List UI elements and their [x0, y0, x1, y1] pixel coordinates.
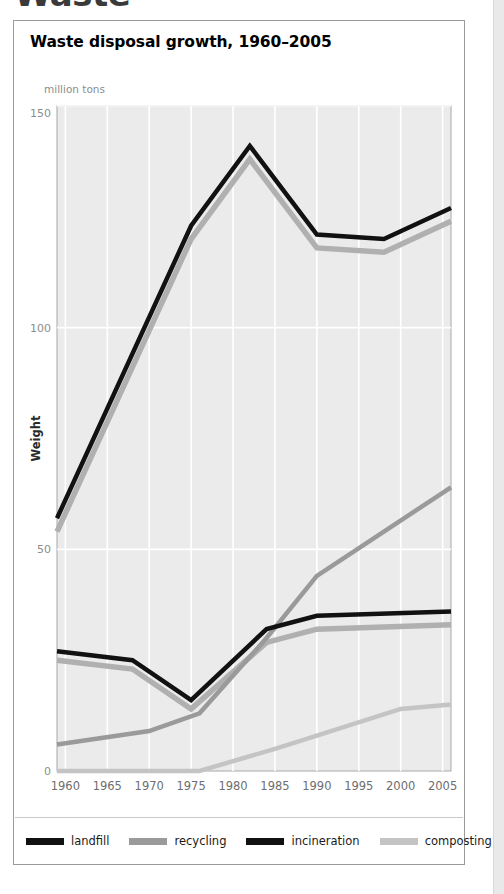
article-page: Waste Waste disposal growth, 1960–2005 m… [0, 0, 504, 894]
chart-figure: Waste disposal growth, 1960–2005 million… [13, 20, 465, 865]
article-heading: Waste [14, 0, 130, 14]
legend-swatch-icon [380, 838, 418, 845]
x-tick-label: 1975 [176, 779, 205, 793]
x-tick-label: 1990 [302, 779, 331, 793]
y-tick-label: 0 [44, 765, 51, 778]
plot-background [57, 106, 451, 771]
chart-legend: landfillrecyclingincinerationcomposting [15, 817, 463, 864]
x-tick-label: 1980 [218, 779, 247, 793]
legend-item-landfill[interactable]: landfill [26, 834, 109, 848]
x-tick-label: 1995 [344, 779, 373, 793]
x-tick-label: 1960 [51, 779, 80, 793]
y-tick-label: 150 [30, 107, 51, 120]
y-tick-label: 100 [30, 322, 51, 335]
legend-swatch-icon [129, 838, 167, 845]
legend-label: recycling [174, 834, 226, 848]
legend-label: incineration [291, 834, 359, 848]
y-axis-title: Weight [29, 415, 43, 461]
y-tick-label: 50 [37, 543, 51, 556]
chart-plot: 0501001501960196519701975198019851990199… [14, 21, 464, 821]
x-tick-label: 2000 [386, 779, 415, 793]
legend-item-incineration[interactable]: incineration [246, 834, 359, 848]
legend-swatch-icon [246, 838, 284, 845]
legend-item-composting[interactable]: composting [380, 834, 492, 848]
x-tick-label: 1985 [260, 779, 289, 793]
legend-label: composting [425, 834, 492, 848]
x-tick-label: 1965 [93, 779, 122, 793]
legend-item-recycling[interactable]: recycling [129, 834, 226, 848]
x-tick-label: 1970 [135, 779, 164, 793]
x-tick-label: 2005 [428, 779, 457, 793]
page-gutter [493, 0, 504, 894]
legend-label: landfill [71, 834, 109, 848]
legend-swatch-icon [26, 838, 64, 845]
